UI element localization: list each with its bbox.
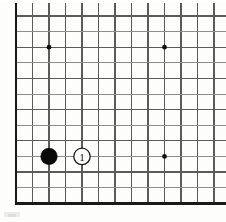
scan-smudge-secondary-icon <box>8 214 16 217</box>
white-stone-move-1-label: 1 <box>79 151 85 163</box>
board-surface: 1 <box>0 0 226 222</box>
board-svg: 1 <box>0 0 226 222</box>
star-points-group <box>47 45 167 159</box>
grid-horizontal-lines <box>16 16 226 203</box>
board-border-lines <box>15 2 226 203</box>
black-stone[interactable] <box>41 148 57 164</box>
star-point-lower-right <box>162 154 167 159</box>
star-point-upper-right <box>162 45 167 50</box>
go-board-diagram: 1 <box>0 0 226 222</box>
grid-vertical-lines <box>16 2 214 203</box>
top-edge-fade <box>0 0 226 3</box>
star-point-upper-left <box>47 45 52 50</box>
